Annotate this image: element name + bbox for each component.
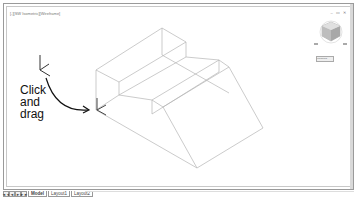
drag-arrow-icon <box>46 78 89 113</box>
drawing-canvas <box>0 0 357 203</box>
view-cube-icon <box>314 21 347 45</box>
ucs-menu-dropdown[interactable]: Unnamed ▾ <box>316 56 334 62</box>
horizontal-scrollbar[interactable] <box>85 191 354 198</box>
annotation-line: drag <box>20 108 46 120</box>
tab-model[interactable]: Model <box>28 191 47 197</box>
click-and-drag-annotation: Click and drag <box>20 84 46 120</box>
last-tab-button[interactable]: ►► <box>21 191 27 197</box>
ucs-icon <box>40 55 50 76</box>
tab-layout1[interactable]: Layout1 <box>48 191 70 197</box>
wireframe-model <box>96 28 263 168</box>
layout-tab-bar: ◄◄ ◄ ► ►► Model Layout1 Layout2 <box>3 190 93 198</box>
